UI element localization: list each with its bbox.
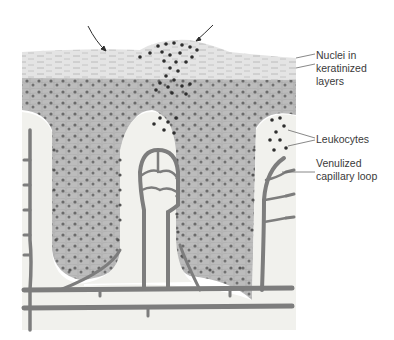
label-venulized-capillary-loop: Venulized capillary loop xyxy=(316,157,377,183)
label-nuclei-keratinized: Nuclei in keratinized layers xyxy=(316,49,367,88)
label-leukocytes: Leukocytes xyxy=(316,133,369,146)
